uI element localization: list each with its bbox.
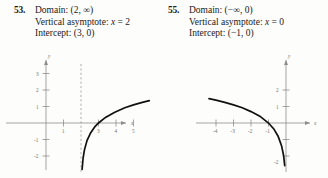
x-tick-label-neg4-55: -4 <box>213 128 218 134</box>
asymptote-line-53: Vertical asymptote: x = 2 <box>35 17 130 29</box>
y-axis-arrow-53 <box>44 60 48 65</box>
y-tick-label-neg1-53: -1 <box>34 137 39 143</box>
asymptote-line-55: Vertical asymptote: x = 0 <box>189 17 284 29</box>
x-axis-label-55: x <box>313 120 317 126</box>
y-tick-label-2-55: 2 <box>276 87 279 93</box>
exercise-number-55: 55. <box>168 5 179 15</box>
y-tick-label-1-55: 1 <box>276 104 279 110</box>
intercept-line-55: Intercept: (−1, 0) <box>189 28 284 40</box>
x-tick-label-3-53: 3 <box>97 128 100 134</box>
curve-53 <box>82 101 149 170</box>
intercept-line-53: Intercept: (3, 0) <box>35 28 130 40</box>
curve-55 <box>209 99 285 166</box>
asymptote-value-53: = 2 <box>115 17 130 27</box>
y-axis-label-53: y <box>47 53 51 59</box>
x-tick-label-4-53: 4 <box>115 128 118 134</box>
x-tick-label-neg2-55: -2 <box>248 128 253 134</box>
y-axis-arrow-55 <box>284 60 288 65</box>
exercise-53-lines: Domain: (2, ∞) Vertical asymptote: x = 2… <box>35 5 130 40</box>
x-tick-label-neg3-55: -3 <box>231 128 236 134</box>
exercise-column-53: 53. Domain: (2, ∞) Vertical asymptote: x… <box>0 0 164 178</box>
y-tick-label-3-53: 3 <box>36 71 39 77</box>
y-tick-label-neg2-55: -2 <box>274 159 279 165</box>
exercise-55-lines: Domain: (−∞, 0) Vertical asymptote: x = … <box>189 5 284 40</box>
domain-line-55: Domain: (−∞, 0) <box>189 5 284 17</box>
exercise-column-55: 55. Domain: (−∞, 0) Vertical asymptote: … <box>164 0 328 178</box>
x-tick-label-1-53: 1 <box>62 128 65 134</box>
domain-line-53: Domain: (2, ∞) <box>35 5 130 17</box>
asymptote-label-55: Vertical asymptote: <box>189 17 265 27</box>
asymptote-label-53: Vertical asymptote: <box>35 17 111 27</box>
y-tick-label-1-53: 1 <box>36 104 39 110</box>
asymptote-value-55: = 0 <box>269 17 284 27</box>
graph-53: x y 1 3 4 5 3 2 1 <box>0 46 164 178</box>
x-tick-label-5-53: 5 <box>132 128 135 134</box>
y-tick-label-2-53: 2 <box>36 87 39 93</box>
y-tick-label-neg2-53: -2 <box>34 153 39 159</box>
x-axis-arrow-53 <box>121 121 126 125</box>
exercise-number-53: 53. <box>14 5 25 15</box>
x-axis-arrow-55 <box>305 121 310 125</box>
graph-55: x y -4 -3 -2 -1 2 1 -2 <box>164 46 328 178</box>
x-tick-label-neg1-55: -1 <box>266 128 271 134</box>
answer-key-page: 53. Domain: (2, ∞) Vertical asymptote: x… <box>0 0 328 178</box>
y-axis-label-55: y <box>287 53 291 59</box>
